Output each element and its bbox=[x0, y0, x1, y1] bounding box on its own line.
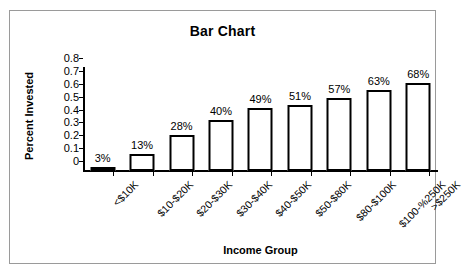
bar[interactable] bbox=[406, 83, 431, 171]
x-axis-tick-mark bbox=[232, 172, 233, 176]
x-axis-tick-mark bbox=[311, 172, 312, 176]
y-axis-tick-mark bbox=[79, 122, 83, 123]
y-axis-tick-mark bbox=[79, 161, 83, 162]
bar-value-label: 57% bbox=[328, 84, 350, 95]
bar[interactable] bbox=[366, 90, 391, 171]
y-axis-tick-mark bbox=[79, 71, 83, 72]
bar-slot: 40% bbox=[201, 68, 240, 171]
bar-value-label: 13% bbox=[131, 140, 153, 151]
y-axis-tick-mark bbox=[79, 58, 83, 59]
x-axis-category-label: $50-$80K bbox=[313, 179, 353, 219]
x-axis-category-label: $40-$50K bbox=[274, 179, 314, 219]
y-axis-tick-mark bbox=[79, 97, 83, 98]
bar-value-label: 63% bbox=[368, 76, 390, 87]
bar[interactable] bbox=[169, 135, 194, 171]
x-axis-tick-mark bbox=[113, 172, 114, 176]
y-axis-tick-label: 0.1 bbox=[53, 143, 79, 154]
y-axis-tick-label: 0.8 bbox=[53, 53, 79, 64]
x-axis-category-label: $20-$30K bbox=[195, 179, 235, 219]
bar[interactable] bbox=[327, 98, 352, 171]
bar-slot: 28% bbox=[162, 68, 201, 171]
y-axis-tick-mark bbox=[79, 110, 83, 111]
bar-slot: 13% bbox=[122, 68, 161, 171]
x-axis-tick-mark bbox=[271, 172, 272, 176]
x-axis-category-label: <$10K bbox=[111, 179, 140, 208]
bar[interactable] bbox=[209, 120, 234, 172]
x-axis-tick-mark bbox=[390, 172, 391, 176]
bar-slot: 63% bbox=[359, 68, 398, 171]
bar[interactable] bbox=[287, 105, 312, 171]
bar-value-label: 51% bbox=[289, 91, 311, 102]
y-axis-title: Percent Invested bbox=[23, 61, 37, 171]
y-axis-tick-labels: 0.80.70.60.50.40.30.20.10 bbox=[51, 11, 79, 277]
plot-area: 3%13%28%40%49%51%57%63%68% bbox=[83, 68, 438, 171]
y-axis-tick-label: 0.4 bbox=[53, 104, 79, 115]
x-axis-category-label: $10-$20K bbox=[155, 179, 195, 219]
y-axis-tick-mark bbox=[79, 135, 83, 136]
bar[interactable] bbox=[90, 167, 115, 171]
bar-slot: 3% bbox=[83, 68, 122, 171]
y-axis-tick-mark bbox=[79, 148, 83, 149]
x-axis-tick-mark bbox=[153, 172, 154, 176]
bar[interactable] bbox=[248, 108, 273, 171]
x-axis-category-label: $80-$100K bbox=[354, 179, 398, 223]
bar-value-label: 3% bbox=[95, 153, 111, 164]
y-axis-tick-label: 0.5 bbox=[53, 91, 79, 102]
chart-frame: Bar Chart Percent Invested 0.80.70.60.50… bbox=[9, 10, 436, 264]
x-axis-tick-mark bbox=[192, 172, 193, 176]
bar-value-label: 68% bbox=[407, 69, 429, 80]
bar-slot: 68% bbox=[399, 68, 438, 171]
y-axis-tick-label: 0 bbox=[53, 156, 79, 167]
y-axis-tick-label: 0.6 bbox=[53, 78, 79, 89]
bar-value-label: 49% bbox=[249, 94, 271, 105]
x-axis-tick-mark bbox=[350, 172, 351, 176]
x-axis-title: Income Group bbox=[83, 244, 438, 256]
y-axis-tick-label: 0.3 bbox=[53, 117, 79, 128]
bar[interactable] bbox=[130, 154, 155, 171]
x-axis-tick-mark bbox=[429, 172, 430, 176]
y-axis-tick-label: 0.2 bbox=[53, 130, 79, 141]
bar-slot: 57% bbox=[320, 68, 359, 171]
bar-slot: 51% bbox=[280, 68, 319, 171]
bar-value-label: 40% bbox=[210, 106, 232, 117]
x-axis-category-label: $30-$40K bbox=[234, 179, 274, 219]
bar-value-label: 28% bbox=[171, 121, 193, 132]
y-axis-tick-mark bbox=[79, 84, 83, 85]
y-axis-tick-label: 0.7 bbox=[53, 65, 79, 76]
bar-slot: 49% bbox=[241, 68, 280, 171]
